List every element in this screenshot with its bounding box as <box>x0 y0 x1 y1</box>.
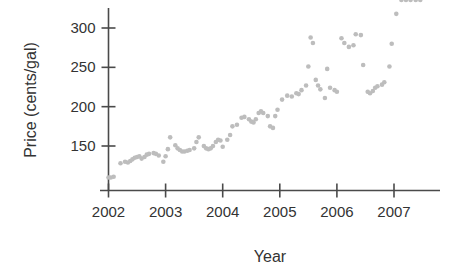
scatter-point <box>275 108 280 113</box>
y-tick-label: 250 <box>70 58 95 75</box>
gasoline-price-scatter-figure: 150200250300 200220032004200520062007 Ye… <box>0 0 465 269</box>
scatter-point <box>308 35 313 40</box>
x-tick-label: 2007 <box>377 203 410 220</box>
chart-canvas: 150200250300 200220032004200520062007 Ye… <box>0 0 465 269</box>
scatter-point <box>266 114 271 119</box>
scatter-point <box>118 161 123 166</box>
scatter-point <box>235 122 240 127</box>
x-tick-label: 2003 <box>149 203 182 220</box>
x-tick-label: 2006 <box>320 203 353 220</box>
scatter-point <box>254 117 259 122</box>
scatter-point <box>299 88 304 93</box>
scatter-point <box>296 92 301 97</box>
scatter-point <box>230 124 235 129</box>
scatter-point <box>271 126 276 131</box>
scatter-point <box>347 45 352 50</box>
scatter-point <box>418 0 423 2</box>
x-tick-label: 2005 <box>263 203 296 220</box>
scatter-point <box>408 0 413 2</box>
scatter-point <box>111 174 116 179</box>
scatter-point <box>339 36 344 41</box>
x-axis-ticks: 200220032004200520062007 <box>92 184 411 220</box>
x-tick-label: 2004 <box>206 203 239 220</box>
x-tick-label: 2002 <box>92 203 125 220</box>
y-tick-label: 150 <box>70 137 95 154</box>
scatter-point <box>261 111 266 116</box>
scatter-point <box>220 144 225 149</box>
scatter-point <box>289 94 294 99</box>
scatter-point <box>404 0 409 2</box>
scatter-points-layer <box>106 0 422 180</box>
scatter-point <box>313 78 318 83</box>
scatter-point <box>225 137 230 142</box>
scatter-point <box>361 63 366 68</box>
y-axis-title: Price (cents/gal) <box>22 42 39 158</box>
scatter-point <box>147 152 152 157</box>
scatter-point <box>382 80 387 85</box>
scatter-point <box>280 97 285 102</box>
scatter-point <box>192 146 197 151</box>
scatter-point <box>311 41 316 46</box>
scatter-point <box>325 67 330 72</box>
y-tick-label: 300 <box>70 19 95 36</box>
scatter-point <box>375 84 380 89</box>
scatter-point <box>228 133 233 138</box>
scatter-point <box>359 33 364 38</box>
scatter-point <box>413 0 418 2</box>
scatter-point <box>211 144 216 149</box>
scatter-point <box>328 85 333 90</box>
scatter-point <box>335 89 340 94</box>
scatter-point <box>316 83 321 88</box>
scatter-point <box>194 140 199 145</box>
scatter-point <box>242 115 247 120</box>
scatter-point <box>342 41 347 46</box>
scatter-point <box>285 93 290 98</box>
scatter-point <box>399 0 404 2</box>
scatter-point <box>196 135 201 140</box>
scatter-point <box>387 64 392 69</box>
scatter-point <box>304 83 309 88</box>
scatter-point <box>218 138 223 143</box>
scatter-point <box>273 114 278 119</box>
scatter-point <box>394 12 399 17</box>
scatter-point <box>323 96 328 101</box>
scatter-point <box>156 153 161 158</box>
scatter-point <box>187 148 192 153</box>
scatter-point <box>318 87 323 92</box>
scatter-point <box>168 135 173 140</box>
scatter-point <box>161 159 166 164</box>
x-axis-title: Year <box>254 248 287 265</box>
y-tick-label: 200 <box>70 98 95 115</box>
scatter-point <box>163 154 168 159</box>
scatter-point <box>353 32 358 37</box>
scatter-point <box>306 64 311 69</box>
scatter-point <box>389 41 394 46</box>
scatter-point <box>166 147 171 152</box>
scatter-point <box>351 43 356 48</box>
